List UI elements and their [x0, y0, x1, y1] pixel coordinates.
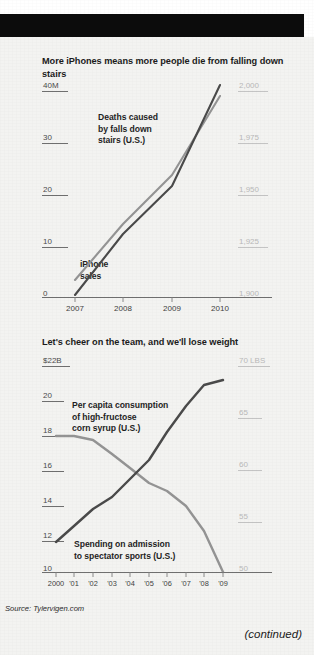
chart-2: $22B 20 18 16 14 12 10 70 LBS: [0, 358, 314, 593]
chart-1-xlabel-0: 2007: [55, 304, 95, 313]
chart-2-line-spending: [56, 380, 223, 542]
chart-1-xlabel-2: 2009: [152, 304, 192, 313]
page-root: More iPhones means more people die from …: [0, 0, 314, 655]
chart-1-title: More iPhones means more people die from …: [42, 55, 292, 80]
top-banner-right-margin: [304, 14, 314, 37]
page-top-margin: [0, 0, 314, 14]
continued-label: (continued): [244, 628, 302, 640]
chart-2-xlabel-9: '09: [211, 579, 235, 588]
chart-1-line-deaths: [75, 96, 220, 280]
top-black-banner: [0, 14, 304, 37]
chart-1: 40M 30 20 10 0 2,000 1,975 1,950: [0, 82, 314, 317]
source-credit: Source: Tylervigen.com: [5, 604, 84, 613]
chart-2-plot: [0, 358, 314, 593]
chart-1-line-iphone: [75, 85, 220, 295]
chart-2-title: Let's cheer on the team, and we'll lose …: [42, 336, 292, 349]
chart-2-line-hfcs: [56, 436, 223, 572]
chart-1-plot: [0, 82, 314, 317]
chart-1-xlabel-3: 2010: [200, 304, 240, 313]
chart-1-xlabel-1: 2008: [103, 304, 143, 313]
